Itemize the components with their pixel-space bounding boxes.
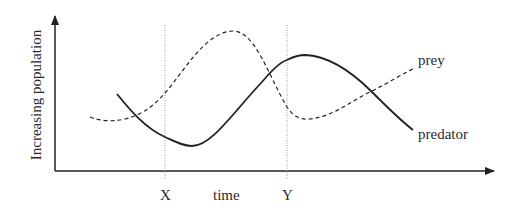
prey-curve	[90, 31, 415, 121]
predator-label: predator	[418, 127, 468, 142]
y-axis-label: Increasing population	[28, 30, 45, 160]
marker-label-x: X	[160, 188, 171, 203]
predator-prey-diagram	[0, 0, 516, 210]
x-axis-label: time	[213, 188, 240, 203]
predator-curve	[117, 55, 413, 146]
prey-label: prey	[418, 53, 445, 68]
marker-label-y: Y	[282, 188, 293, 203]
